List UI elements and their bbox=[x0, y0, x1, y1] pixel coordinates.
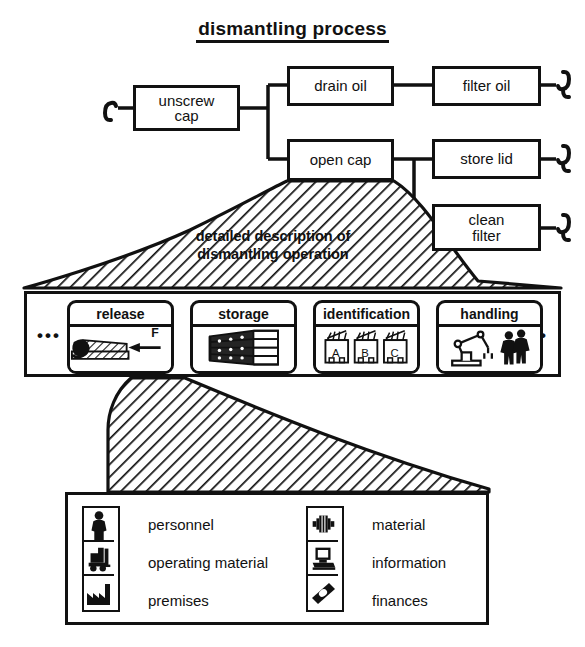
flow-node-store-lid[interactable]: store lid bbox=[432, 139, 541, 179]
card-handling[interactable]: handling bbox=[436, 300, 543, 374]
legend-row-premises: premises bbox=[132, 581, 268, 619]
force-label: F bbox=[151, 327, 159, 340]
legend-label: material bbox=[372, 516, 425, 533]
worker-figures bbox=[500, 329, 529, 364]
container-label-b: B bbox=[361, 347, 369, 359]
legend-column-right: material information finances bbox=[356, 505, 446, 619]
flow-node-label: drain oil bbox=[314, 78, 367, 93]
left-ellipsis: ••• bbox=[37, 326, 61, 346]
card-title: release bbox=[70, 303, 171, 327]
card-illustration-handling bbox=[439, 327, 540, 371]
computer-icon bbox=[308, 542, 338, 576]
card-title: storage bbox=[193, 303, 294, 327]
forklift-icon bbox=[84, 542, 114, 576]
banknote-icon bbox=[308, 576, 338, 610]
flow-node-open-cap[interactable]: open cap bbox=[287, 139, 394, 181]
legend-label: finances bbox=[372, 592, 428, 609]
flow-node-label: open cap bbox=[310, 152, 372, 167]
legend-label: operating material bbox=[148, 554, 268, 571]
funnel-caption: detailed description of dismantling oper… bbox=[148, 227, 398, 263]
flow-node-clean-filter[interactable]: clean filter bbox=[432, 204, 541, 251]
card-illustration-identification: A B C bbox=[316, 327, 417, 371]
wedge-force-icon: F bbox=[70, 327, 171, 371]
legend-icon-stack-right bbox=[306, 506, 344, 612]
factory-icon bbox=[84, 576, 114, 610]
person-icon-glyph bbox=[84, 508, 114, 540]
shelf-rack-icon bbox=[193, 327, 294, 371]
legend-row-information: information bbox=[356, 543, 446, 581]
diagram-canvas: dismantling process bbox=[0, 0, 585, 647]
flow-node-filter-oil[interactable]: filter oil bbox=[432, 66, 541, 106]
card-storage[interactable]: storage bbox=[190, 300, 297, 374]
funnel-caption-line2: dismantling operation bbox=[148, 245, 398, 263]
legend-label: premises bbox=[148, 592, 209, 609]
legend-icon-stack-left bbox=[82, 506, 120, 612]
container-label-a: A bbox=[332, 347, 340, 359]
machine-part-icon-glyph bbox=[308, 508, 338, 540]
legend-label: information bbox=[372, 554, 446, 571]
card-illustration-storage bbox=[193, 327, 294, 371]
robot-arm-workers-icon bbox=[439, 327, 540, 371]
legend-row-operating-material: operating material bbox=[132, 543, 268, 581]
flow-node-label: clean filter bbox=[469, 212, 505, 243]
computer-icon-glyph bbox=[308, 542, 338, 574]
forklift-icon-glyph bbox=[84, 542, 114, 574]
legend-row-finances: finances bbox=[356, 581, 446, 619]
legend-label: personnel bbox=[148, 516, 214, 533]
legend-column-left: personnel operating material premises bbox=[132, 505, 268, 619]
flow-node-label: filter oil bbox=[463, 78, 511, 93]
operation-cards-container: ••• ••• release bbox=[24, 291, 561, 377]
container-label-c: C bbox=[391, 347, 399, 359]
labelled-containers-icon: A B C bbox=[316, 327, 417, 371]
legend-row-material: material bbox=[356, 505, 446, 543]
flow-node-drain-oil[interactable]: drain oil bbox=[287, 66, 394, 106]
card-illustration-release: F bbox=[70, 327, 171, 371]
funnel-caption-line1: detailed description of bbox=[148, 227, 398, 245]
flow-node-unscrew-cap[interactable]: unscrew cap bbox=[133, 85, 240, 131]
flow-node-label: unscrew cap bbox=[159, 93, 215, 124]
card-title: identification bbox=[316, 303, 417, 327]
funnel-resource-breakdown bbox=[108, 378, 489, 492]
card-release[interactable]: release bbox=[67, 300, 174, 374]
person-icon bbox=[84, 508, 114, 542]
resource-legend-panel: personnel operating material premises bbox=[65, 492, 489, 625]
legend-row-personnel: personnel bbox=[132, 505, 268, 543]
card-identification[interactable]: identification bbox=[313, 300, 420, 374]
machine-part-icon bbox=[308, 508, 338, 542]
flow-node-label: store lid bbox=[460, 151, 513, 166]
factory-icon-glyph bbox=[84, 576, 114, 610]
banknote-icon-glyph bbox=[308, 576, 338, 610]
card-title: handling bbox=[439, 303, 540, 327]
